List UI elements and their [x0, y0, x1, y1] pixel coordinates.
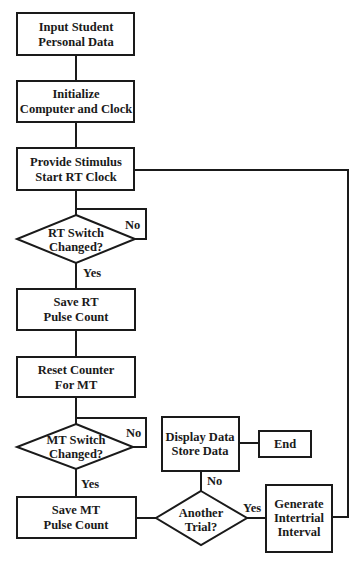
node-save-mt: Save MT Pulse Count [17, 497, 136, 538]
node-text: Another [179, 506, 224, 520]
node-text: MT Switch [46, 433, 105, 447]
node-text: Display Data [165, 430, 235, 444]
node-text: Save RT [53, 295, 99, 309]
node-display-data: Display Data Store Data [162, 417, 239, 471]
node-save-rt: Save RT Pulse Count [17, 289, 135, 330]
label-mt-yes: Yes [81, 477, 99, 491]
node-text: Changed? [49, 447, 103, 461]
node-generate-interval: Generate Intertrial Interval [266, 485, 332, 552]
label-trial-yes: Yes [243, 501, 261, 515]
label-mt-no: No [126, 426, 141, 440]
label-rt-yes: Yes [83, 266, 101, 280]
node-text: Changed? [49, 240, 103, 254]
node-initialize: Initialize Computer and Clock [17, 81, 134, 122]
node-text: Intertrial [274, 511, 325, 525]
node-text: Start RT Clock [35, 170, 116, 184]
node-text: RT Switch [48, 226, 104, 240]
node-text: Personal Data [38, 35, 114, 49]
node-text: Pulse Count [44, 310, 110, 324]
label-rt-no: No [125, 218, 140, 232]
node-input-student: Input Student Personal Data [17, 13, 134, 55]
label-trial-no: No [207, 474, 222, 488]
node-text: Interval [277, 525, 321, 539]
flowchart: Input Student Personal Data Initialize C… [0, 0, 361, 562]
node-text: Reset Counter [38, 363, 115, 377]
node-text: Input Student [39, 20, 115, 34]
node-text: Generate [274, 497, 324, 511]
node-another-trial-decision: Another Trial? [156, 491, 247, 545]
node-text: Save MT [52, 503, 101, 517]
node-text: Initialize [52, 87, 100, 101]
node-mt-switch-decision: MT Switch Changed? [17, 424, 133, 469]
node-provide-stimulus: Provide Stimulus Start RT Clock [17, 148, 134, 190]
node-text: Provide Stimulus [30, 155, 122, 169]
node-text: Computer and Clock [20, 102, 132, 116]
node-text: Pulse Count [44, 518, 110, 532]
node-end: End [259, 431, 311, 457]
node-text: End [274, 437, 296, 451]
node-text: Trial? [185, 520, 217, 534]
node-text: For MT [55, 378, 98, 392]
node-reset-counter: Reset Counter For MT [17, 357, 135, 397]
node-text: Store Data [171, 444, 229, 458]
node-rt-switch-decision: RT Switch Changed? [17, 215, 135, 263]
